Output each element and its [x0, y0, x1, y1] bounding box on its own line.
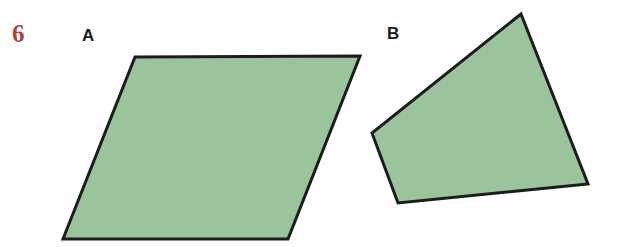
exercise-number: 6: [12, 21, 25, 46]
shape-b-label: B: [387, 25, 399, 42]
shape-a-label: A: [82, 27, 94, 44]
geometry-figure: 6 A B: [0, 0, 618, 247]
